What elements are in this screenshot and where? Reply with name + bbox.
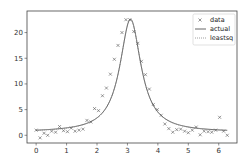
x-tick-label: 4: [156, 147, 161, 155]
legend: data actual leastsq: [193, 14, 235, 45]
x-tick-label: 5: [186, 147, 190, 155]
x-tick-label: 0: [34, 147, 38, 155]
x-tick-label: 6: [217, 147, 222, 155]
x-axis: 0123456: [34, 143, 222, 155]
x-tick-label: 3: [125, 147, 129, 155]
y-tick-label: 15: [14, 55, 23, 63]
x-tick-label: 1: [64, 147, 68, 155]
y-tick-label: 0: [19, 132, 23, 140]
legend-label-leastsq: leastsq: [210, 34, 233, 42]
legend-label-data: data: [210, 16, 225, 24]
chart: 05101520 0123456 data actual leastsq: [0, 0, 245, 163]
y-tick-label: 10: [14, 80, 23, 88]
y-axis: 05101520: [14, 29, 27, 140]
x-tick-label: 2: [95, 147, 99, 155]
y-tick-label: 20: [14, 29, 23, 37]
y-tick-label: 5: [19, 106, 23, 114]
legend-label-actual: actual: [210, 25, 230, 33]
